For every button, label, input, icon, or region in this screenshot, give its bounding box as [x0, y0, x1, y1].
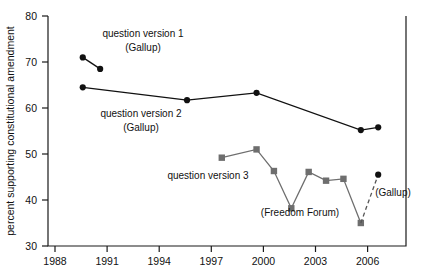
annotation-qv4-src: (Gallup) — [375, 187, 411, 198]
series-1 — [80, 54, 104, 72]
chart-container: 80 70 60 50 40 30 1988 1991 1994 1997 20… — [0, 0, 423, 279]
data-point — [80, 84, 86, 90]
data-point — [271, 168, 277, 174]
y-ticklabel-70: 70 — [25, 56, 37, 68]
annotation-qv3-src-gallup2: (Gallup) — [123, 122, 159, 133]
series-line — [361, 175, 378, 223]
y-axis-ticklabels: 80 70 60 50 40 30 — [25, 10, 37, 252]
data-point — [253, 90, 259, 96]
annotation-qv3-src: (Freedom Forum) — [261, 207, 339, 218]
y-axis-ticks — [42, 16, 48, 246]
x-ticklabel-2000: 2000 — [252, 255, 276, 267]
y-axis-title: percent supporting constitutional amendm… — [4, 26, 16, 236]
data-point — [375, 124, 381, 130]
annotation-qv1: question version 1 — [102, 28, 184, 39]
x-ticklabel-1997: 1997 — [200, 255, 224, 267]
axes-frame — [48, 16, 406, 246]
x-ticklabel-1994: 1994 — [148, 255, 172, 267]
annotation-layer: question version 1 (Gallup) question ver… — [100, 28, 410, 218]
y-ticklabel-30: 30 — [25, 240, 37, 252]
data-point — [340, 176, 346, 182]
data-point — [305, 169, 311, 175]
series-layer — [80, 54, 382, 226]
x-ticklabel-2006: 2006 — [356, 255, 380, 267]
data-point — [219, 154, 225, 160]
x-ticklabel-1991: 1991 — [95, 255, 119, 267]
annotation-qv2: question version 2 — [100, 108, 182, 119]
data-point — [253, 146, 259, 152]
y-ticklabel-80: 80 — [25, 10, 37, 22]
x-axis-ticklabels: 1988 1991 1994 1997 2000 2003 2006 — [43, 255, 379, 267]
y-ticklabel-50: 50 — [25, 148, 37, 160]
data-point — [184, 97, 190, 103]
x-ticklabel-2003: 2003 — [304, 255, 328, 267]
series-line — [83, 57, 100, 69]
data-point — [323, 177, 329, 183]
x-axis-ticks — [55, 246, 368, 252]
chart-svg: 80 70 60 50 40 30 1988 1991 1994 1997 20… — [0, 0, 423, 279]
y-ticklabel-60: 60 — [25, 102, 37, 114]
axis-box — [48, 16, 406, 246]
y-ticklabel-40: 40 — [25, 194, 37, 206]
data-point — [358, 127, 364, 133]
data-point — [375, 172, 381, 178]
data-point — [97, 66, 103, 72]
annotation-qv1-src: (Gallup) — [125, 42, 161, 53]
data-point — [80, 54, 86, 60]
annotation-qv3: question version 3 — [167, 170, 249, 181]
x-ticklabel-1988: 1988 — [43, 255, 67, 267]
